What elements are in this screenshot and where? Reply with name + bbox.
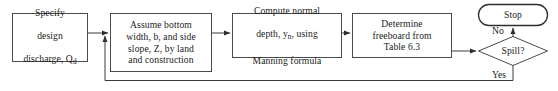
process-box-compute-normal-depth <box>233 14 342 58</box>
process-box-specify-discharge <box>13 14 88 62</box>
flowchart-canvas <box>0 0 558 91</box>
flowchart-diagram: Specify design discharge, Qd Assume bott… <box>0 0 558 91</box>
terminator-stop-shape <box>479 5 548 26</box>
decision-spill-shape <box>479 37 548 66</box>
process-box-assume-bottom-width <box>111 14 212 72</box>
process-box-determine-freeboard <box>353 14 452 58</box>
